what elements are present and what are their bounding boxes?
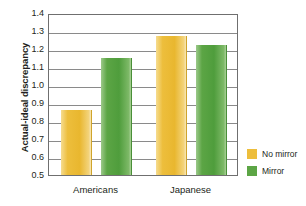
x-axis-category-labels: AmericansJapanese xyxy=(48,180,238,200)
y-axis-tick-label: 1.4 xyxy=(4,9,48,18)
legend-swatch-icon xyxy=(247,149,257,159)
legend-item[interactable]: No mirror xyxy=(247,148,305,159)
legend-item[interactable]: Mirror xyxy=(247,165,305,176)
y-axis-tick-label: 1.1 xyxy=(4,63,48,72)
bar-chart: Actual-ideal discrepancy 1.41.31.21.11.0… xyxy=(0,0,306,206)
bar-japanese-no-mirror xyxy=(156,36,187,175)
bar-japanese-mirror xyxy=(196,45,227,175)
legend-label: Mirror xyxy=(262,166,284,176)
y-axis-tick-label: 0.5 xyxy=(4,171,48,180)
y-axis-tick-label: 1.3 xyxy=(4,27,48,36)
bar-americans-no-mirror xyxy=(61,110,92,175)
x-axis-label-americans: Americans xyxy=(48,184,143,195)
legend-swatch-icon xyxy=(247,166,257,176)
legend: No mirrorMirror xyxy=(247,148,305,182)
bar-americans-mirror xyxy=(101,58,132,175)
y-axis-tick-label: 0.8 xyxy=(4,117,48,126)
y-axis-tick-label: 0.6 xyxy=(4,153,48,162)
y-axis-tick-labels: 1.41.31.21.11.00.90.80.70.60.5 xyxy=(0,0,48,180)
x-axis-label-japanese: Japanese xyxy=(143,184,238,195)
y-axis-tick-label: 1.0 xyxy=(4,81,48,90)
y-axis-tick-label: 0.9 xyxy=(4,99,48,108)
y-axis-tick-label: 1.2 xyxy=(4,45,48,54)
bars-group xyxy=(49,15,237,175)
legend-label: No mirror xyxy=(262,149,297,159)
plot-area xyxy=(48,14,238,176)
y-axis-tick-label: 0.7 xyxy=(4,135,48,144)
